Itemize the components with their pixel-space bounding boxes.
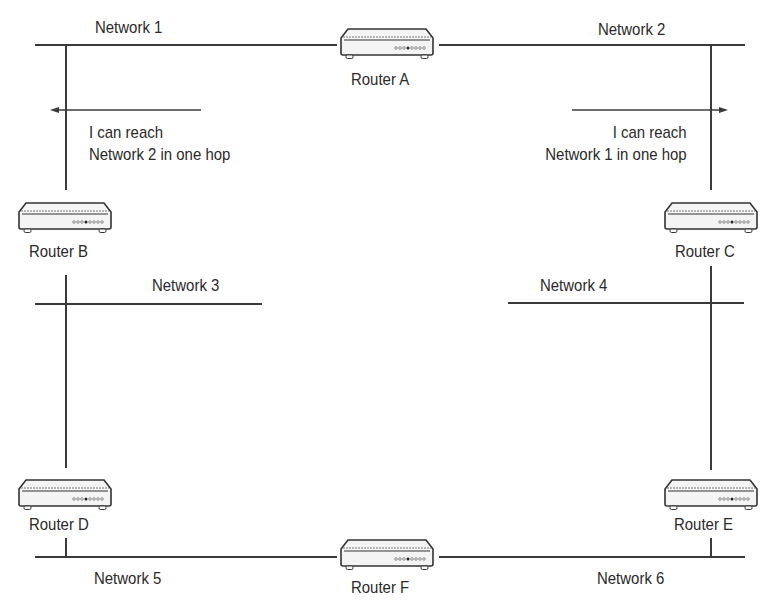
router-c-label: Router C [675, 242, 735, 262]
network-diagram: Network 1 Network 2 Network 3 Network 4 … [0, 0, 774, 610]
network-1-label: Network 1 [95, 18, 162, 38]
arrow-right-icon [572, 105, 728, 115]
router-d-downlink [65, 538, 67, 557]
arrow-left-icon [50, 105, 201, 115]
left-annotation-line1: I can reach [89, 122, 230, 144]
network-5-line [35, 556, 337, 558]
router-d-icon [16, 477, 114, 511]
router-e-label: Router E [674, 515, 733, 535]
router-c-icon [662, 200, 760, 234]
router-b-uplink [65, 44, 67, 190]
right-annotation-line2: Network 1 in one hop [546, 144, 687, 166]
router-c-uplink [710, 44, 712, 190]
network-6-label: Network 6 [597, 569, 664, 589]
left-annotation: I can reach Network 2 in one hop [89, 122, 230, 166]
network-2-line [439, 44, 745, 46]
router-b-downlink [65, 275, 67, 468]
router-d-label: Router D [29, 515, 89, 535]
network-4-line [508, 302, 744, 304]
right-annotation-line1: I can reach [546, 122, 687, 144]
router-a-label: Router A [351, 70, 409, 90]
network-2-label: Network 2 [598, 20, 665, 40]
router-f-label: Router F [351, 578, 409, 598]
router-b-label: Router B [29, 242, 88, 262]
router-a-icon [338, 26, 436, 60]
network-3-line [35, 303, 262, 305]
network-4-label: Network 4 [540, 276, 607, 296]
network-3-label: Network 3 [152, 276, 219, 296]
router-e-downlink [710, 538, 712, 557]
network-6-line [439, 556, 745, 558]
router-b-icon [16, 200, 114, 234]
router-f-icon [338, 537, 436, 571]
left-annotation-line2: Network 2 in one hop [89, 144, 230, 166]
router-c-downlink [710, 266, 712, 470]
router-e-icon [662, 477, 760, 511]
network-5-label: Network 5 [94, 569, 161, 589]
right-annotation: I can reach Network 1 in one hop [546, 122, 687, 166]
network-1-line [35, 44, 337, 46]
